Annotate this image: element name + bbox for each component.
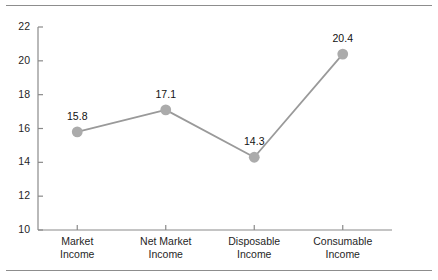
y-axis-tick-label-text: 16 — [8, 123, 30, 134]
y-axis-tick-label-text: 20 — [8, 55, 30, 66]
y-axis-tick-marks — [38, 27, 43, 230]
chart-plot-area: 22201816141210 MarketIncomeNet MarketInc… — [0, 0, 438, 280]
y-axis-tick-label: 22 — [8, 21, 30, 32]
figure-container: 22201816141210 MarketIncomeNet MarketInc… — [0, 0, 438, 280]
y-axis-tick-label-text: 12 — [8, 190, 30, 201]
y-axis-tick-label-text: 10 — [8, 224, 30, 235]
data-point-marker[interactable] — [249, 152, 260, 163]
y-axis-tick-label: 16 — [8, 123, 30, 134]
y-axis-tick-label-text: 22 — [8, 21, 30, 32]
category-label-line-2: Income — [31, 248, 123, 261]
category-label-line-2: Income — [120, 248, 212, 261]
x-axis-tick-marks — [77, 225, 343, 230]
category-label-line-1: Net Market — [120, 235, 212, 248]
y-axis-tick-label: 12 — [8, 190, 30, 201]
category-label-line-1: Market — [31, 235, 123, 248]
x-axis-category-label: Net MarketIncome — [120, 235, 212, 261]
category-label-line-2: Income — [208, 248, 300, 261]
y-axis-tick-label: 20 — [8, 55, 30, 66]
data-point-marker[interactable] — [337, 49, 348, 60]
data-point-value-label: 20.4 — [320, 33, 366, 44]
category-label-line-1: Disposable — [208, 235, 300, 248]
y-axis-tick-label-text: 18 — [8, 89, 30, 100]
data-point-markers — [72, 49, 348, 163]
y-axis-tick-label-text: 14 — [8, 156, 30, 167]
data-point-value-label: 15.8 — [54, 111, 100, 122]
data-point-value-label: 14.3 — [231, 136, 277, 147]
data-point-marker[interactable] — [160, 104, 171, 115]
data-point-value-label: 17.1 — [143, 89, 189, 100]
x-axis-category-label: DisposableIncome — [208, 235, 300, 261]
category-label-line-1: Consumable — [297, 235, 389, 248]
data-series-line — [77, 54, 343, 157]
y-axis-tick-label: 18 — [8, 89, 30, 100]
data-point-marker[interactable] — [72, 126, 83, 137]
x-axis-category-label: ConsumableIncome — [297, 235, 389, 261]
category-label-line-2: Income — [297, 248, 389, 261]
y-axis-tick-label: 10 — [8, 224, 30, 235]
x-axis-category-label: MarketIncome — [31, 235, 123, 261]
y-axis-tick-label: 14 — [8, 156, 30, 167]
